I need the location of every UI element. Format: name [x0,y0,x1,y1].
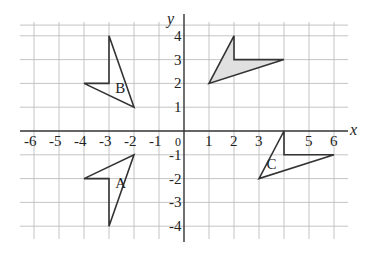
shape-label-B: B [115,80,125,96]
x-tick-label: -5 [49,133,62,149]
y-tick-label: -4 [169,218,182,234]
x-tick-label: 5 [305,133,313,149]
coordinate-grid-diagram: BAC xy -6-5-4-3-2-10123564321-1-2-3-4 [0,0,373,257]
x-tick-label: -2 [124,133,137,149]
x-tick-label: 6 [330,133,338,149]
y-tick-label: -1 [169,147,182,163]
coordinate-plane: BAC xy -6-5-4-3-2-10123564321-1-2-3-4 [0,0,373,257]
x-tick-label: -4 [74,133,87,149]
x-tick-label: -1 [149,133,162,149]
y-tick-label: 3 [174,52,182,68]
y-tick-label: 1 [174,99,182,115]
x-tick-label: -6 [24,133,37,149]
y-axis-label: y [165,10,175,28]
y-tick-label: 2 [174,75,182,91]
shape-label-A: A [115,175,126,191]
shape-label-C: C [267,156,277,172]
x-tick-label: 3 [255,133,263,149]
y-tick-label: 4 [174,28,182,44]
y-tick-label: -3 [169,194,182,210]
x-tick-label: -3 [99,133,112,149]
x-tick-label: 1 [205,133,213,149]
axes: xy [20,10,357,242]
y-tick-label: -2 [169,171,182,187]
x-axis-label: x [349,121,357,138]
x-tick-label: 2 [230,133,238,149]
